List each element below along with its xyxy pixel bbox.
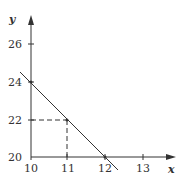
- x-axis-arrow-icon: [166, 154, 176, 160]
- y-tick-label: 22: [8, 115, 22, 126]
- y-axis-label: y: [9, 14, 15, 25]
- x-tick-label: 12: [98, 163, 112, 174]
- x-tick-label: 13: [136, 163, 150, 174]
- data-point: [66, 119, 69, 122]
- y-tick-label: 20: [8, 152, 22, 163]
- data-point: [104, 156, 107, 159]
- x-axis-label: x: [168, 164, 175, 175]
- data-point: [30, 81, 33, 84]
- chart-container: y x 26 24 22 20 10 11 12 13: [0, 0, 189, 182]
- x-tick-label: 10: [24, 163, 38, 174]
- y-tick-label: 26: [8, 39, 22, 50]
- data-line: [20, 72, 118, 170]
- y-axis-arrow-icon: [28, 15, 34, 25]
- chart-plot: [0, 0, 189, 182]
- y-tick-label: 24: [8, 77, 22, 88]
- x-tick-label: 11: [61, 163, 75, 174]
